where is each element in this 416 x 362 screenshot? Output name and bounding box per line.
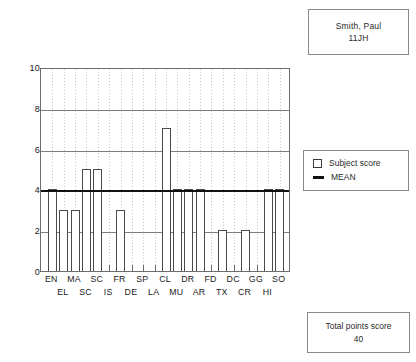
grid-line-vertical	[211, 69, 212, 271]
x-axis-tick-label: CR	[238, 287, 251, 297]
thick-line-icon	[313, 176, 324, 179]
total-points-label: Total points score	[325, 320, 391, 332]
x-axis-tick-label: FR	[113, 274, 125, 284]
bar	[173, 189, 182, 271]
bar	[184, 189, 193, 271]
x-axis-tick-label: EL	[57, 287, 68, 297]
y-axis-tick-label: 8	[18, 104, 40, 114]
x-axis-tick	[234, 265, 235, 271]
legend-item-subject-score: Subject score	[313, 157, 381, 171]
bar	[48, 189, 57, 271]
x-axis-tick-label: SP	[136, 274, 148, 284]
x-axis-tick-label: DR	[181, 274, 194, 284]
x-axis-tick	[132, 265, 133, 271]
x-axis-tick-label: SC	[79, 287, 92, 297]
legend-item-mean: MEAN	[313, 171, 356, 185]
grid-line-horizontal	[41, 110, 289, 111]
grid-line-vertical	[109, 69, 110, 271]
grid-line-vertical	[155, 69, 156, 271]
y-axis-tick-label: 2	[18, 226, 40, 236]
student-name: Smith, Paul	[336, 20, 382, 32]
x-axis-tick-label: SO	[272, 274, 285, 284]
bar	[59, 210, 68, 271]
x-axis-tick-label: TX	[216, 287, 228, 297]
bar	[275, 189, 284, 271]
x-axis-tick-label: DE	[125, 287, 138, 297]
bar	[241, 230, 250, 271]
x-axis-tick	[143, 265, 144, 271]
x-axis-tick	[211, 265, 212, 271]
plot-area	[40, 68, 290, 272]
bar	[82, 169, 91, 271]
bar	[93, 169, 102, 271]
x-axis-tick-label: EN	[45, 274, 58, 284]
x-axis-tick-label: SC	[91, 274, 104, 284]
x-axis-tick	[257, 265, 258, 271]
student-info-box: Smith, Paul 11JH	[308, 9, 409, 55]
x-axis-tick-label: MA	[67, 274, 81, 284]
x-axis-tick-label: GG	[249, 274, 263, 284]
x-axis-tick-label: IS	[104, 287, 113, 297]
grid-line-vertical	[257, 69, 258, 271]
bar	[162, 128, 171, 271]
x-axis-tick-label: AR	[193, 287, 206, 297]
y-axis-tick-label: 4	[18, 185, 40, 195]
y-axis-tick-label: 10	[18, 63, 40, 73]
x-axis-tick-label: DC	[227, 274, 240, 284]
legend-label-mean: MEAN	[331, 171, 356, 183]
square-outline-icon	[313, 159, 322, 168]
x-axis-tick-label: HI	[263, 287, 272, 297]
bar	[71, 210, 80, 271]
x-axis-labels: ENELMASCSCISFRDESPLACLMUDRARFDTXDCCRGGHI…	[40, 274, 290, 304]
bar	[116, 210, 125, 271]
x-axis-tick-label: MU	[169, 287, 183, 297]
student-form: 11JH	[348, 32, 368, 44]
subject-score-chart: 0246810 ENELMASCSCISFRDESPLACLMUDRARFDTX…	[8, 60, 298, 300]
legend-label-subject-score: Subject score	[329, 157, 381, 169]
y-axis-tick-label: 0	[18, 267, 40, 277]
x-axis-tick-label: CL	[159, 274, 171, 284]
y-axis-tick-label: 6	[18, 145, 40, 155]
grid-line-vertical	[132, 69, 133, 271]
x-axis-tick-label: LA	[148, 287, 159, 297]
x-axis-tick	[155, 265, 156, 271]
bar	[196, 189, 205, 271]
bar	[264, 189, 273, 271]
total-points-box: Total points score 40	[307, 312, 410, 353]
grid-line-vertical	[234, 69, 235, 271]
grid-line-vertical	[143, 69, 144, 271]
x-axis-tick	[109, 265, 110, 271]
x-axis-tick-label: FD	[204, 274, 216, 284]
chart-legend: Subject score MEAN	[303, 150, 409, 191]
bar	[218, 230, 227, 271]
mean-line	[41, 190, 289, 192]
total-points-value: 40	[354, 333, 363, 345]
